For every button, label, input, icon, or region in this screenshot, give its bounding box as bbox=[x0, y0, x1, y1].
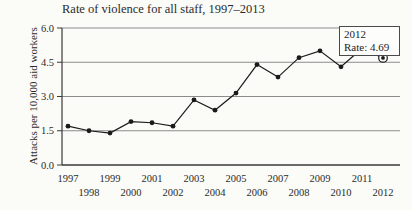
data-point bbox=[255, 62, 260, 67]
data-point bbox=[87, 128, 92, 133]
x-tick-label: 2011 bbox=[352, 173, 373, 184]
data-point bbox=[108, 131, 113, 136]
data-point bbox=[213, 108, 218, 113]
data-point bbox=[276, 75, 281, 80]
violence-rate-figure: Rate of violence for all staff, 1997–201… bbox=[0, 0, 412, 210]
y-tick-label: 1.5 bbox=[41, 125, 54, 136]
data-point bbox=[171, 124, 176, 129]
data-point bbox=[234, 91, 239, 96]
data-point bbox=[150, 120, 155, 125]
y-tick-label: 4.5 bbox=[41, 57, 54, 68]
data-point bbox=[129, 119, 134, 124]
annotation-year: 2012 bbox=[344, 28, 396, 41]
x-tick-label: 1998 bbox=[79, 187, 100, 198]
data-point bbox=[339, 64, 344, 69]
x-tick-label: 2010 bbox=[331, 187, 352, 198]
x-tick-label: 2003 bbox=[184, 173, 205, 184]
x-tick-label: 1999 bbox=[100, 173, 121, 184]
x-tick-label: 2004 bbox=[205, 187, 227, 198]
x-tick-label: 2007 bbox=[268, 173, 289, 184]
data-point bbox=[318, 48, 323, 53]
data-point bbox=[297, 55, 302, 60]
y-tick-label: 0.0 bbox=[41, 160, 54, 171]
x-tick-label: 2008 bbox=[289, 187, 310, 198]
annotation-rate: Rate: 4.69 bbox=[344, 41, 396, 54]
x-tick-label: 1997 bbox=[58, 173, 79, 184]
data-point bbox=[381, 56, 385, 60]
data-point bbox=[192, 98, 197, 103]
y-tick-label: 3.0 bbox=[41, 91, 54, 102]
x-tick-label: 2005 bbox=[226, 173, 247, 184]
x-tick-label: 2009 bbox=[310, 173, 331, 184]
x-tick-label: 2012 bbox=[373, 187, 394, 198]
x-tick-label: 2001 bbox=[142, 173, 163, 184]
annotation-callout: 2012 Rate: 4.69 bbox=[339, 26, 400, 56]
data-point bbox=[66, 124, 71, 129]
data-line bbox=[68, 49, 383, 133]
x-tick-label: 2002 bbox=[163, 187, 184, 198]
x-tick-label: 2000 bbox=[121, 187, 142, 198]
y-tick-label: 6.0 bbox=[41, 23, 54, 34]
x-tick-label: 2006 bbox=[247, 187, 268, 198]
